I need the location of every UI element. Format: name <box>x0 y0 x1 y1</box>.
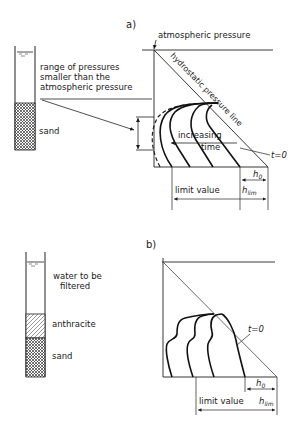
t0-label-b: t=0 <box>248 324 264 334</box>
sand-label-a: sand <box>39 126 59 136</box>
hlim-label-b: hlim <box>259 396 274 407</box>
range-annotation-line3: atmospheric pressure <box>40 82 132 92</box>
panel-label-a: a) <box>126 19 136 30</box>
range-annotation-line2: smaller than the <box>40 72 110 82</box>
hydrostatic-pressure-line-b <box>163 262 277 377</box>
range-annotation-line1: range of pressures <box>40 62 120 72</box>
increasing-label: increasing <box>178 130 222 140</box>
curve-b-3 <box>208 314 222 377</box>
filter-column-b <box>26 252 45 377</box>
limit-value-label-a: limit value <box>175 185 220 195</box>
limit-value-label-b: limit value <box>199 396 244 406</box>
sand-label-b: sand <box>52 351 72 361</box>
curve-b-4 <box>222 314 245 377</box>
t0-label-a: t=0 <box>271 150 287 160</box>
sand-layer-a <box>15 103 35 150</box>
water-label-line1: water to be <box>53 271 102 281</box>
h0-label-b: h0 <box>256 378 265 389</box>
pressure-plot-a: atmospheric pressure hydrostatic pressur… <box>136 30 287 210</box>
hlim-label-a: hlim <box>242 185 257 196</box>
curve-b-2 <box>187 314 214 377</box>
h0-label-a: h0 <box>253 169 262 180</box>
filter-column-a <box>15 46 35 150</box>
atmospheric-pressure-label: atmospheric pressure <box>158 30 250 40</box>
water-label-line2: filtered <box>60 281 90 291</box>
filter-pressure-diagram: a) range of pressures smaller than the a… <box>0 0 304 425</box>
anthracite-label: anthracite <box>52 319 96 329</box>
figure-b: b) water to be filtered anthracite sand <box>26 239 277 415</box>
panel-label-b: b) <box>146 239 156 250</box>
figure-a: a) range of pressures smaller than the a… <box>15 19 287 210</box>
anthracite-layer <box>26 314 45 338</box>
time-label: time <box>201 142 220 152</box>
sand-layer-b <box>26 338 45 377</box>
pressure-plot-b: t=0 h0 limit value hlim <box>162 258 277 415</box>
